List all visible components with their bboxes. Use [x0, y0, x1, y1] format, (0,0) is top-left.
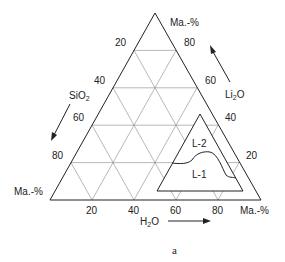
right-unit-label: Ma.-% — [240, 205, 269, 216]
bottom-tick-20: 20 — [86, 205, 98, 216]
li2o-axis-label: Li2O — [225, 89, 245, 101]
region-label-l2: L-2 — [192, 138, 207, 149]
bottom-tick-60: 60 — [170, 205, 182, 216]
h2o-axis-label: H2O — [140, 216, 159, 228]
right-tick-20: 20 — [246, 150, 258, 161]
left-tick-40: 40 — [94, 75, 106, 86]
ternary-diagram: L-2 L-1 Ma.-% 80 60 40 20 Li2O 20 40 60 … — [0, 0, 285, 262]
bottom-tick-80: 80 — [212, 205, 224, 216]
left-tick-60: 60 — [73, 112, 85, 123]
figure-caption: a — [172, 244, 177, 256]
region-label-l1: L-1 — [192, 169, 207, 180]
right-tick-80: 80 — [184, 37, 196, 48]
bottom-tick-40: 40 — [128, 205, 140, 216]
left-tick-20: 20 — [115, 37, 127, 48]
right-tick-40: 40 — [225, 112, 237, 123]
h2o-arrow-icon — [168, 218, 211, 224]
left-unit-label: Ma.-% — [14, 186, 43, 197]
sio2-axis-label: SiO2 — [69, 90, 90, 102]
sio2-arrow-icon — [51, 104, 70, 141]
left-tick-80: 80 — [52, 150, 64, 161]
top-unit-label: Ma.-% — [170, 17, 199, 28]
right-tick-60: 60 — [205, 75, 217, 86]
